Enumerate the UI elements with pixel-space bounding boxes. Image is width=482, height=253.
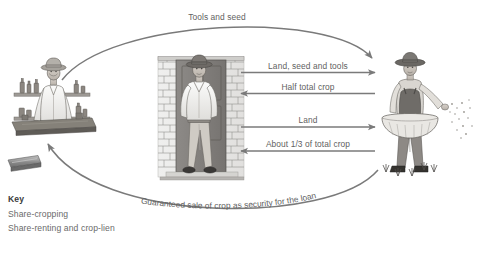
merchant-illustration bbox=[12, 58, 96, 136]
flow-label-0: Land, seed and tools bbox=[268, 61, 348, 71]
arc-top-label: Tools and seed bbox=[188, 12, 246, 22]
flow-label-2: Land bbox=[298, 115, 317, 125]
arc-bottom-label: Guaranteed sale of crop as security for … bbox=[140, 190, 317, 210]
key-swatch bbox=[8, 156, 41, 172]
key-item-share-cropping: Share-cropping bbox=[8, 209, 68, 219]
diagram-graphics: Guaranteed sale of crop as security for … bbox=[0, 0, 482, 253]
flow-label-1: Half total crop bbox=[281, 82, 334, 92]
key-item-share-renting-crop-lien: Share-renting and crop-lien bbox=[8, 223, 115, 233]
flow-label-3: About 1/3 of total crop bbox=[266, 139, 350, 149]
farmer-illustration bbox=[382, 53, 473, 177]
diagram-canvas: Guaranteed sale of crop as security for … bbox=[0, 0, 482, 253]
landlord-illustration bbox=[158, 55, 244, 180]
key-title: Key bbox=[8, 194, 24, 204]
